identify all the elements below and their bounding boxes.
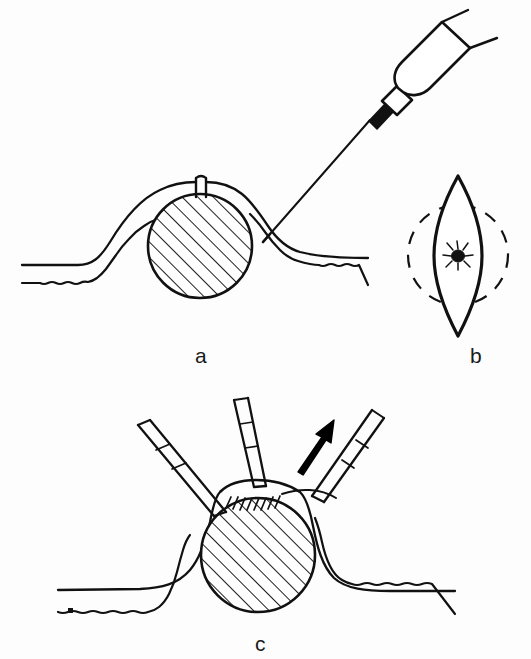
dermis-left-tick-mark xyxy=(68,608,73,613)
panel-label-a: a xyxy=(195,345,207,366)
panel-label-b: b xyxy=(470,345,482,366)
medical-illustration-figure: a b c xyxy=(0,0,531,659)
figure-drawing-canvas xyxy=(0,0,531,659)
tick-top-body xyxy=(452,250,465,262)
panel-label-c: c xyxy=(255,633,266,654)
